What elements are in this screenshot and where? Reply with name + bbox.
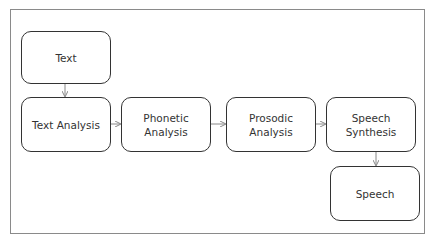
node-text-analysis-label: Text Analysis bbox=[32, 118, 100, 132]
node-text: Text bbox=[21, 31, 111, 84]
node-speech-synthesis: Speech Synthesis bbox=[326, 97, 416, 152]
node-speech-synthesis-label: Speech Synthesis bbox=[341, 111, 401, 139]
node-prosodic-analysis: Prosodic Analysis bbox=[226, 97, 316, 152]
node-text-label: Text bbox=[55, 51, 76, 65]
node-phonetic-analysis: Phonetic Analysis bbox=[121, 97, 211, 152]
node-prosodic-analysis-label: Prosodic Analysis bbox=[241, 111, 301, 139]
node-phonetic-analysis-label: Phonetic Analysis bbox=[136, 111, 196, 139]
node-speech: Speech bbox=[330, 166, 420, 221]
node-text-analysis: Text Analysis bbox=[21, 97, 111, 152]
node-speech-label: Speech bbox=[356, 187, 395, 201]
